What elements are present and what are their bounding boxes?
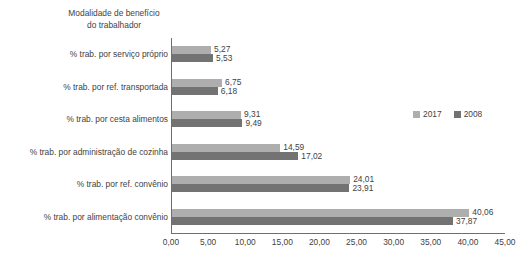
x-tick-label: 40,00 [451,237,485,247]
legend-swatch-2017 [413,111,420,118]
x-tick-label: 15,00 [265,237,299,247]
legend-label-2008: 2008 [464,110,483,119]
bar-2017 [172,144,280,152]
axis-title: Modalidade de benefício do trabalhador [46,8,182,31]
x-tick-label: 5,00 [191,237,225,247]
category-label: % trab. por ref. transportada [0,82,171,92]
x-tick-label: 25,00 [340,237,374,247]
bar-value-2008: 17,02 [298,152,322,161]
legend-swatch-2008 [454,111,461,118]
bar-2017 [172,176,350,184]
bar-value-2008: 5,53 [213,54,232,63]
bar-2008 [172,119,242,127]
bar-2008 [172,54,213,62]
bar-value-2008: 9,49 [242,119,261,128]
x-tick-label: 45,00 [488,237,522,247]
x-tick-label: 10,00 [228,237,262,247]
bar-2008 [172,184,349,192]
bar-value-2008: 37,87 [453,217,477,226]
x-axis-line [171,233,505,234]
category-label: % trab. por cesta alimentos [0,114,171,124]
bar-2017 [172,46,211,54]
bar-2008 [172,217,453,225]
legend: 2017 2008 [413,110,482,119]
y-axis-line [171,38,172,233]
bar-2017 [172,111,241,119]
category-label: % trab. por serviço próprio [0,49,171,59]
category-label: % trab. por alimentação convênio [0,212,171,222]
x-tick-label: 20,00 [302,237,336,247]
legend-item-2017: 2017 [413,110,442,119]
bar-value-2008: 6,18 [218,87,237,96]
bar-2008 [172,87,218,95]
legend-item-2008: 2008 [454,110,483,119]
bar-2017 [172,209,469,217]
bar-chart: Modalidade de benefício do trabalhador 5… [0,0,523,261]
x-tick-label: 35,00 [414,237,448,247]
bar-value-2008: 23,91 [349,184,373,193]
plot-area: 5,275,536,756,189,319,4914,5917,0224,012… [171,38,505,233]
bar-2008 [172,152,298,160]
legend-label-2017: 2017 [423,110,442,119]
x-tick-label: 0,00 [154,237,188,247]
category-label: % trab. por ref. convênio [0,179,171,189]
x-tick-label: 30,00 [377,237,411,247]
category-label: % trab. por administração de cozinha [0,147,171,157]
bar-2017 [172,79,222,87]
